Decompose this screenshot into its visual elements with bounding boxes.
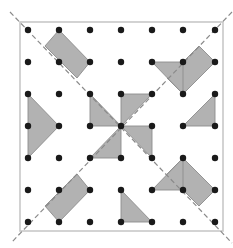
- grid-dot-r0-c2: [87, 27, 93, 33]
- grid-dot-r0-c5: [180, 27, 186, 33]
- grid-dot-r5-c0: [25, 187, 31, 193]
- grid-dot-r5-c3: [118, 187, 124, 193]
- grid-dot-r1-c1: [56, 59, 62, 65]
- grid-dot-r6-c0: [25, 219, 31, 225]
- grid-dot-r2-c6: [212, 91, 218, 97]
- grid-dot-r2-c2: [87, 91, 93, 97]
- grid-dot-r2-c5: [180, 91, 186, 97]
- grid-dot-r3-c3: [118, 123, 124, 129]
- grid-dot-r1-c4: [149, 59, 155, 65]
- grid-dot-r2-c3: [118, 91, 124, 97]
- grid-dot-r4-c5: [180, 155, 186, 161]
- geoboard-diagram: [0, 0, 233, 248]
- grid-dot-r6-c2: [87, 219, 93, 225]
- grid-dot-r3-c6: [212, 123, 218, 129]
- grid-dot-r5-c2: [87, 187, 93, 193]
- grid-dot-r2-c4: [149, 91, 155, 97]
- grid-dot-r4-c6: [212, 155, 218, 161]
- grid-dot-r3-c0: [25, 123, 31, 129]
- grid-dot-r4-c2: [87, 155, 93, 161]
- grid-dot-r5-c6: [212, 187, 218, 193]
- grid-dot-r2-c0: [25, 91, 31, 97]
- grid-dot-r3-c1: [56, 123, 62, 129]
- grid-dot-r0-c1: [56, 27, 62, 33]
- grid-dot-r6-c6: [212, 219, 218, 225]
- grid-dot-r1-c5: [180, 59, 186, 65]
- grid-dot-r4-c1: [56, 155, 62, 161]
- grid-dot-r0-c4: [149, 27, 155, 33]
- grid-dot-r6-c3: [118, 219, 124, 225]
- grid-dot-r1-c3: [118, 59, 124, 65]
- grid-dot-r4-c4: [149, 155, 155, 161]
- grid-dot-r4-c0: [25, 155, 31, 161]
- grid-dot-r3-c2: [87, 123, 93, 129]
- grid-dot-r6-c5: [180, 219, 186, 225]
- grid-dot-r0-c0: [25, 27, 31, 33]
- grid-dot-r1-c6: [212, 59, 218, 65]
- grid-dot-r2-c1: [56, 91, 62, 97]
- grid-dot-r5-c5: [180, 187, 186, 193]
- grid-dot-r5-c4: [149, 187, 155, 193]
- grid-dot-r1-c2: [87, 59, 93, 65]
- grid-dot-r5-c1: [56, 187, 62, 193]
- grid-dot-r3-c5: [180, 123, 186, 129]
- grid-dot-r0-c6: [212, 27, 218, 33]
- grid-dot-r0-c3: [118, 27, 124, 33]
- grid-dot-r4-c3: [118, 155, 124, 161]
- grid-dot-r6-c1: [56, 219, 62, 225]
- grid-dot-r3-c4: [149, 123, 155, 129]
- grid-dot-r6-c4: [149, 219, 155, 225]
- grid-dot-r1-c0: [25, 59, 31, 65]
